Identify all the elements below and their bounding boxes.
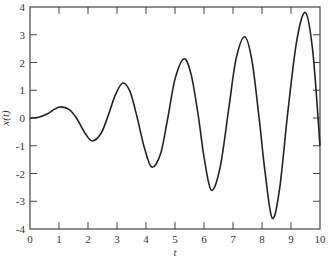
y-tick-label: -2: [16, 168, 25, 180]
data-line-x-of-t: [30, 12, 320, 218]
x-tick-label: 8: [259, 233, 265, 245]
x-tick-label: 5: [172, 233, 178, 245]
y-tick-label: 4: [20, 1, 26, 13]
y-tick-label: 1: [20, 84, 26, 96]
x-axis-title: t: [173, 246, 177, 258]
y-axis-title: x(t): [0, 110, 12, 127]
x-tick-label: 2: [85, 233, 91, 245]
x-tick-label: 9: [288, 233, 294, 245]
y-tick-label: 3: [20, 29, 26, 41]
y-tick-label: -1: [16, 140, 25, 152]
x-tick-label: 1: [56, 233, 62, 245]
y-tick-label: -4: [16, 223, 26, 235]
x-axis-ticks: 012345678910: [27, 7, 326, 245]
x-tick-label: 3: [114, 233, 120, 245]
x-tick-label: 6: [201, 233, 207, 245]
y-tick-label: 2: [20, 57, 26, 69]
x-tick-label: 0: [27, 233, 33, 245]
chart: 012345678910 43210-1-2-3-4 t x(t): [0, 0, 328, 261]
plot-frame: [30, 7, 320, 229]
y-tick-label: 0: [20, 112, 26, 124]
x-tick-label: 10: [315, 233, 327, 245]
x-tick-label: 4: [143, 233, 149, 245]
x-tick-label: 7: [230, 233, 236, 245]
y-tick-label: -3: [16, 195, 26, 207]
